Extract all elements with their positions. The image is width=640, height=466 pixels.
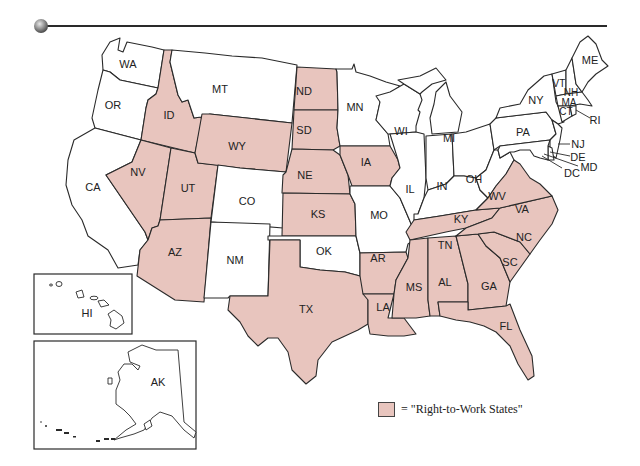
legend: = "Right-to-Work States" xyxy=(378,402,523,417)
label-tn: TN xyxy=(438,239,453,251)
label-nv: NV xyxy=(130,166,146,178)
label-ms: MS xyxy=(406,281,423,293)
label-nm: NM xyxy=(226,254,243,266)
label-az: AZ xyxy=(168,246,182,258)
label-nj: NJ xyxy=(571,138,584,150)
label-mi: MI xyxy=(443,132,455,144)
label-fl: FL xyxy=(500,320,513,332)
label-ok: OK xyxy=(316,245,333,257)
label-ak: AK xyxy=(151,376,166,388)
label-ga: GA xyxy=(481,280,498,292)
label-ut: UT xyxy=(181,182,196,194)
label-ca: CA xyxy=(85,181,101,193)
label-va: VA xyxy=(515,203,530,215)
label-mo: MO xyxy=(370,209,388,221)
label-ny: NY xyxy=(528,94,544,106)
label-al: AL xyxy=(438,276,451,288)
legend-label: = "Right-to-Work States" xyxy=(401,402,523,417)
us-map: WA OR CA ID NV UT AZ MT WY CO NM ND SD N… xyxy=(0,0,640,466)
label-in: IN xyxy=(437,180,448,192)
label-ri: RI xyxy=(590,114,601,126)
legend-swatch xyxy=(378,402,395,417)
label-wy: WY xyxy=(228,140,246,152)
label-ky: KY xyxy=(454,213,469,225)
label-ar: AR xyxy=(370,252,385,264)
label-hi: HI xyxy=(82,307,93,319)
label-ia: IA xyxy=(361,156,372,168)
label-oh: OH xyxy=(466,173,483,185)
label-dc: DC xyxy=(564,167,580,179)
label-sc: SC xyxy=(502,256,517,268)
state-mi-lower[interactable] xyxy=(430,82,462,134)
label-nd: ND xyxy=(296,85,312,97)
label-il: IL xyxy=(405,183,414,195)
label-sd: SD xyxy=(296,124,311,136)
label-id: ID xyxy=(164,109,175,121)
label-ks: KS xyxy=(311,208,326,220)
label-ct: CT xyxy=(559,106,572,117)
label-me: ME xyxy=(582,54,599,66)
label-nc: NC xyxy=(516,231,532,243)
label-mt: MT xyxy=(212,83,228,95)
label-wi: WI xyxy=(394,125,407,137)
label-wv: WV xyxy=(488,190,506,202)
label-pa: PA xyxy=(516,126,531,138)
label-mn: MN xyxy=(346,101,363,113)
header-bullet-icon xyxy=(34,19,48,33)
label-co: CO xyxy=(239,195,256,207)
label-or: OR xyxy=(105,99,122,111)
label-ne: NE xyxy=(297,169,312,181)
state-fl[interactable] xyxy=(438,302,534,380)
label-wa: WA xyxy=(119,58,137,70)
label-md: MD xyxy=(580,161,597,173)
label-tx: TX xyxy=(299,303,314,315)
label-la: LA xyxy=(376,301,390,313)
